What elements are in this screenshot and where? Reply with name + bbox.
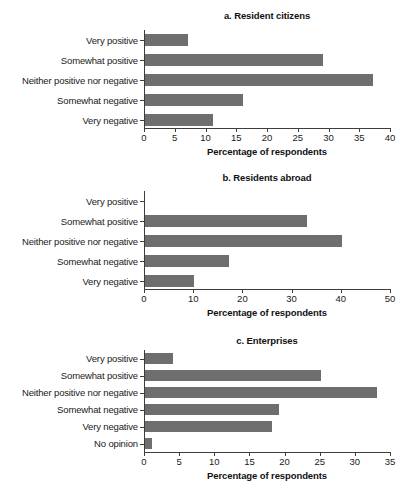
figure-three-bar-charts: a. Resident citizensVery positiveSomewha… <box>0 0 404 489</box>
x-axis-tick-label: 15 <box>231 132 242 143</box>
x-axis-label-a: Percentage of respondents <box>144 146 390 157</box>
category-label: Somewhat negative <box>0 256 138 267</box>
chart-panel-a: a. Resident citizensVery positiveSomewha… <box>0 0 404 162</box>
category-label: Very positive <box>0 196 138 207</box>
category-label: Neither positive nor negative <box>0 387 138 398</box>
bar <box>145 255 229 267</box>
x-axis-tick-label: 15 <box>244 456 255 467</box>
bar <box>145 387 377 398</box>
bar <box>145 404 279 415</box>
x-axis-line-b <box>144 289 390 290</box>
y-axis-tick <box>140 444 144 445</box>
category-label: Very positive <box>0 35 138 46</box>
x-axis-tick-label: 50 <box>385 293 396 304</box>
y-axis-tick <box>140 100 144 101</box>
bar <box>145 94 243 106</box>
x-axis-tick-label: 5 <box>172 132 177 143</box>
category-label: Neither positive nor negative <box>0 75 138 86</box>
category-label: Somewhat positive <box>0 370 138 381</box>
bar <box>145 235 342 247</box>
category-label: Somewhat negative <box>0 404 138 415</box>
y-axis-tick <box>140 40 144 41</box>
x-axis-tick-label: 20 <box>262 132 273 143</box>
bar <box>145 34 188 46</box>
x-axis-tick-label: 20 <box>279 456 290 467</box>
bar <box>145 421 272 432</box>
x-axis-tick-label: 30 <box>323 132 334 143</box>
x-axis-tick-label: 10 <box>200 132 211 143</box>
x-axis-tick-label: 0 <box>141 132 146 143</box>
x-axis-tick-label: 35 <box>354 132 365 143</box>
x-axis-line-c <box>144 452 390 453</box>
category-label: Very negative <box>0 421 138 432</box>
category-label: Very positive <box>0 353 138 364</box>
y-axis-tick <box>140 359 144 360</box>
category-label: Very negative <box>0 276 138 287</box>
y-axis-tick <box>140 241 144 242</box>
x-axis-tick-label: 10 <box>209 456 220 467</box>
chart-title-a: a. Resident citizens <box>144 10 390 21</box>
y-axis-tick <box>140 281 144 282</box>
x-axis-tick-label: 5 <box>176 456 181 467</box>
category-label: Somewhat negative <box>0 95 138 106</box>
y-axis-tick <box>140 80 144 81</box>
x-axis-tick-label: 35 <box>385 456 396 467</box>
y-axis-tick <box>140 393 144 394</box>
category-label: Somewhat positive <box>0 216 138 227</box>
chart-title-b: b. Residents abroad <box>144 172 390 183</box>
bar <box>145 215 307 227</box>
category-label: Neither positive nor negative <box>0 236 138 247</box>
bar <box>145 54 323 66</box>
x-axis-tick-label: 0 <box>141 293 146 304</box>
bar <box>145 74 373 86</box>
bar <box>145 114 213 126</box>
y-axis-tick <box>140 427 144 428</box>
x-axis-label-b: Percentage of respondents <box>144 307 390 318</box>
x-axis-tick-label: 0 <box>141 456 146 467</box>
x-axis-tick-label: 25 <box>314 456 325 467</box>
bar <box>145 275 194 287</box>
x-axis-tick-label: 40 <box>336 293 347 304</box>
chart-panel-b: b. Residents abroadVery positiveSomewhat… <box>0 165 404 323</box>
y-axis-tick <box>140 60 144 61</box>
y-axis-tick <box>140 376 144 377</box>
chart-panel-c: c. EnterprisesVery positiveSomewhat posi… <box>0 330 404 486</box>
y-axis-tick <box>140 261 144 262</box>
bar <box>145 438 152 449</box>
category-label: Somewhat positive <box>0 55 138 66</box>
x-axis-tick-label: 30 <box>286 293 297 304</box>
chart-title-c: c. Enterprises <box>144 335 390 346</box>
x-axis-tick-label: 30 <box>350 456 361 467</box>
bar <box>145 370 321 381</box>
y-axis-line-c <box>144 350 145 452</box>
y-axis-tick <box>140 221 144 222</box>
y-axis-tick <box>140 410 144 411</box>
y-axis-tick <box>140 120 144 121</box>
x-axis-label-c: Percentage of respondents <box>144 470 390 481</box>
x-axis-tick-label: 10 <box>188 293 199 304</box>
category-label: No opinion <box>0 438 138 449</box>
y-axis-tick <box>140 201 144 202</box>
x-axis-tick-label: 25 <box>292 132 303 143</box>
bar <box>145 353 173 364</box>
category-label: Very negative <box>0 115 138 126</box>
x-axis-tick-label: 40 <box>385 132 396 143</box>
x-axis-tick-label: 20 <box>237 293 248 304</box>
